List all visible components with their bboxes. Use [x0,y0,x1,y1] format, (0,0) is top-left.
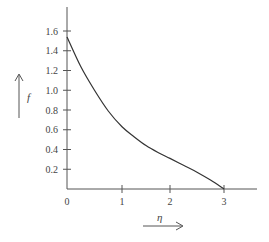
x-tick-label: 2 [168,196,173,207]
x-tick-label: 3 [222,196,227,207]
chart-figure: 0.20.40.60.81.01.21.41.6 0123 f η [0,0,269,242]
x-tick-label: 1 [120,196,125,207]
y-tick-label: 1.4 [46,45,59,56]
y-tick-label: 0.4 [46,144,59,155]
y-tick-label: 0.2 [46,164,59,175]
y-tick-label: 1.2 [46,65,59,76]
x-ticks: 0123 [65,185,227,207]
data-curve [67,37,224,189]
axes [67,7,257,189]
x-tick-label: 0 [65,196,70,207]
y-tick-label: 1.0 [46,85,59,96]
y-tick-label: 0.6 [46,124,59,135]
y-tick-label: 1.6 [46,26,59,37]
x-axis-label: η [157,211,162,223]
y-axis-arrow-icon [15,74,23,118]
line-chart: 0.20.40.60.81.01.21.41.6 0123 f η [0,0,269,242]
x-axis-arrow-icon [143,222,183,230]
y-axis-label: f [27,91,32,103]
y-tick-label: 0.8 [46,105,59,116]
